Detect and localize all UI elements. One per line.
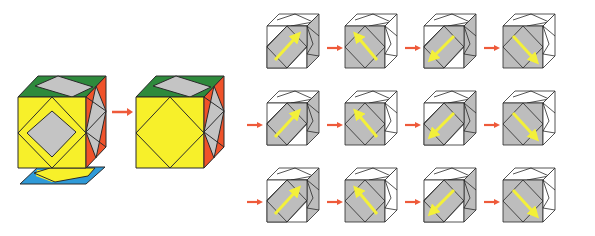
small-cube (424, 14, 476, 68)
small-cube (345, 91, 397, 145)
step-arrow (405, 45, 421, 51)
small-cube (503, 14, 555, 68)
rotation-grid (247, 14, 555, 222)
small-cube (424, 91, 476, 145)
row-arrow (247, 122, 263, 128)
step-arrow (405, 122, 421, 128)
small-cube (267, 168, 319, 222)
small-cube (267, 14, 319, 68)
step-arrow (484, 45, 500, 51)
small-cube (345, 168, 397, 222)
step-arrow (484, 122, 500, 128)
row-arrow (247, 199, 263, 205)
step-arrow (327, 199, 343, 205)
small-cube (345, 14, 397, 68)
step-arrow (484, 199, 500, 205)
small-cube (503, 91, 555, 145)
step-arrow (327, 45, 343, 51)
step-arrow (405, 199, 421, 205)
small-cube (424, 168, 476, 222)
small-cube (503, 168, 555, 222)
transition-arrow (112, 108, 133, 116)
cube-before (18, 76, 106, 184)
diagram-canvas (0, 0, 595, 236)
step-arrow (327, 122, 343, 128)
bottom-layer (20, 167, 105, 184)
small-cube (267, 91, 319, 145)
cube-after (136, 76, 224, 168)
